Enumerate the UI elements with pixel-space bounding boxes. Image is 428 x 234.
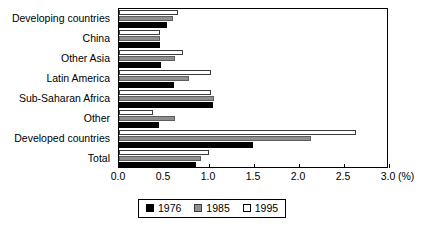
bar-1995 — [119, 130, 356, 136]
axis-tick — [209, 164, 210, 168]
bar-1976 — [119, 82, 174, 88]
axis-tick — [344, 164, 345, 168]
bar-1995 — [119, 90, 211, 96]
bar-1976 — [119, 162, 196, 168]
legend-item-1985: 1985 — [194, 202, 229, 214]
bar-1995 — [119, 10, 178, 16]
legend-swatch-1995 — [243, 204, 251, 212]
legend-swatch-1976 — [146, 204, 154, 212]
category-label: Latin America — [0, 73, 110, 84]
bar-group — [119, 29, 387, 49]
bar-1995 — [119, 70, 211, 76]
axis-tick-label: 1.5 — [246, 170, 261, 182]
bar-1985 — [119, 156, 201, 162]
bar-group — [119, 69, 387, 89]
bar-group — [119, 49, 387, 69]
bar-1976 — [119, 142, 253, 148]
bar-group — [119, 109, 387, 129]
category-label: Sub-Saharan Africa — [0, 93, 110, 104]
axis-tick — [164, 164, 165, 168]
bar-1995 — [119, 110, 153, 116]
axis-tick-label: 2.5 — [336, 170, 351, 182]
axis-tick-label: 0.0 — [111, 170, 126, 182]
chart-legend: 1976 1985 1995 — [138, 199, 286, 218]
legend-label-1995: 1995 — [255, 202, 278, 214]
category-label: Total — [0, 153, 110, 164]
bar-1976 — [119, 62, 161, 68]
bar-1985 — [119, 96, 214, 102]
plot-area — [118, 8, 388, 168]
axis-tick — [119, 164, 120, 168]
bar-chart: Developing countriesChinaOther AsiaLatin… — [0, 0, 428, 234]
axis-tick-label: 0.5 — [156, 170, 171, 182]
axis-tick — [389, 164, 390, 168]
axis-tick — [254, 164, 255, 168]
bar-1985 — [119, 76, 189, 82]
bar-1985 — [119, 116, 175, 122]
bar-group — [119, 149, 387, 169]
category-label: Developed countries — [0, 133, 110, 144]
bar-1976 — [119, 22, 167, 28]
axis-tick-label: 1.0 — [201, 170, 216, 182]
category-label: China — [0, 33, 110, 44]
bar-1976 — [119, 102, 213, 108]
bar-1985 — [119, 56, 175, 62]
legend-item-1995: 1995 — [243, 202, 278, 214]
value-axis-tick-labels: 0.00.51.01.52.02.53.0 — [0, 170, 428, 184]
bar-group — [119, 89, 387, 109]
category-label: Other — [0, 113, 110, 124]
legend-label-1985: 1985 — [206, 202, 229, 214]
bar-1985 — [119, 16, 173, 22]
bar-1995 — [119, 150, 209, 156]
bar-group — [119, 129, 387, 149]
bar-group — [119, 9, 387, 29]
bar-1995 — [119, 50, 183, 56]
axis-unit-label: (%) — [398, 170, 414, 182]
bar-1985 — [119, 36, 160, 42]
category-label: Developing countries — [0, 13, 110, 24]
category-label: Other Asia — [0, 53, 110, 64]
axis-tick — [299, 164, 300, 168]
category-axis-labels: Developing countriesChinaOther AsiaLatin… — [0, 8, 114, 168]
bar-1995 — [119, 30, 160, 36]
bar-1976 — [119, 42, 160, 48]
legend-swatch-1985 — [194, 204, 202, 212]
axis-tick-label: 2.0 — [291, 170, 306, 182]
axis-tick-label: 3.0 — [381, 170, 396, 182]
bar-1976 — [119, 122, 159, 128]
bar-1985 — [119, 136, 311, 142]
legend-item-1976: 1976 — [146, 202, 181, 214]
legend-label-1976: 1976 — [158, 202, 181, 214]
